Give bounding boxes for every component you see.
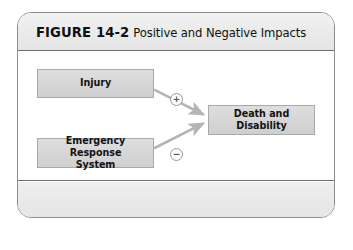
figure-title: FIGURE 14-2Positive and Negative Impacts	[36, 24, 306, 39]
node-injury: Injury	[37, 69, 154, 98]
node-ems-label-line1: Emergency Response	[66, 135, 125, 158]
diagram-plate: Injury Emergency Response System Death a…	[18, 51, 334, 181]
figure-card: FIGURE 14-2Positive and Negative Impacts…	[17, 12, 335, 218]
node-outcome-label: Death and Disability	[234, 108, 289, 132]
positive-sign-badge: +	[170, 93, 183, 106]
figure-header: FIGURE 14-2Positive and Negative Impacts	[18, 13, 334, 51]
arrow-ems-to-outcome	[154, 123, 203, 148]
node-outcome-label-line2: Disability	[236, 120, 287, 131]
negative-sign-badge: −	[170, 148, 183, 161]
node-ems-label: Emergency Response System	[41, 135, 150, 171]
node-ems-label-line2: System	[76, 159, 116, 170]
node-emergency-response-system: Emergency Response System	[37, 138, 154, 168]
figure-caption-text: Positive and Negative Impacts	[133, 25, 306, 39]
node-outcome-label-line1: Death and	[234, 108, 289, 119]
node-injury-label: Injury	[80, 77, 111, 89]
node-death-and-disability: Death and Disability	[208, 105, 315, 135]
minus-icon: −	[173, 150, 181, 159]
figure-number-label: FIGURE 14-2	[36, 24, 129, 39]
plus-icon: +	[173, 95, 181, 104]
figure-footer-band	[18, 182, 334, 217]
